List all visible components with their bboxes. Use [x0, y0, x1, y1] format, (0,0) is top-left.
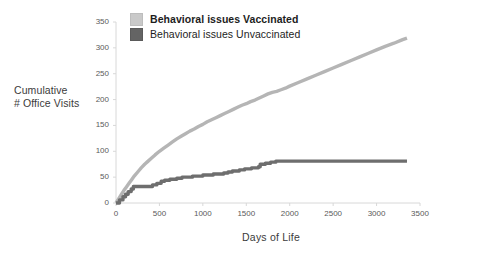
series-line-vaccinated [116, 38, 407, 203]
y-tick-label: 350 [76, 17, 109, 26]
x-axis-title-text: Days of Life [242, 231, 300, 243]
y-tick-label: 200 [76, 95, 109, 104]
x-axis-title: Days of Life [0, 231, 478, 243]
chart-figure: Cumulative # Office Visits Behavioral is… [0, 0, 478, 257]
y-tick-label: 250 [76, 69, 109, 78]
y-tick-label: 100 [76, 146, 109, 155]
x-tick-label: 1000 [183, 209, 223, 218]
series-line-unvaccinated [116, 161, 407, 203]
x-tick-label: 3500 [400, 209, 440, 218]
x-tick-label: 500 [139, 209, 179, 218]
y-tick-label: 0 [76, 198, 109, 207]
x-tick-label: 2000 [270, 209, 310, 218]
y-tick-label: 300 [76, 43, 109, 52]
y-tick-label: 50 [76, 172, 109, 181]
x-tick-label: 0 [96, 209, 136, 218]
plot-area [0, 0, 478, 257]
x-tick-label: 2500 [313, 209, 353, 218]
series-layer [116, 38, 407, 203]
x-tick-label: 3000 [357, 209, 397, 218]
y-tick-label: 150 [76, 120, 109, 129]
x-tick-label: 1500 [226, 209, 266, 218]
